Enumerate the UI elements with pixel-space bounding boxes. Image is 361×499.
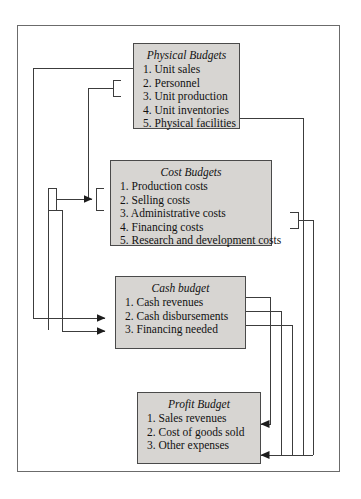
node-cash-budget-items: 1. Cash revenues 2. Cash disbursements 3… [125,296,236,337]
list-item: 3. Other expenses [147,439,251,453]
list-item: 2. Cash disbursements [125,310,236,324]
node-cost-budgets-items: 1. Production costs 2. Selling costs 3. … [120,180,262,248]
list-item: 1. Unit sales [143,63,230,77]
list-item: 5. Physical facilities [143,117,230,131]
node-physical-budgets-title: Physical Budgets [143,49,230,61]
node-profit-budget-items: 1. Sales revenues 2. Cost of goods sold … [147,412,251,453]
list-item: 2. Cost of goods sold [147,426,251,440]
node-cost-budgets: Cost Budgets 1. Production costs 2. Sell… [110,160,272,246]
node-profit-budget: Profit Budget 1. Sales revenues 2. Cost … [137,392,261,464]
list-item: 3. Unit production [143,90,230,104]
list-item: 2. Personnel [143,77,230,91]
list-item: 5. Research and development costs [120,234,262,248]
list-item: 4. Financing costs [120,221,262,235]
node-profit-budget-title: Profit Budget [147,398,251,410]
list-item: 3. Administrative costs [120,207,262,221]
list-item: 2. Selling costs [120,194,262,208]
list-item: 1. Cash revenues [125,296,236,310]
node-physical-budgets-items: 1. Unit sales 2. Personnel 3. Unit produ… [143,63,230,131]
node-cash-budget: Cash budget 1. Cash revenues 2. Cash dis… [115,276,246,349]
list-item: 1. Production costs [120,180,262,194]
node-cost-budgets-title: Cost Budgets [120,166,262,178]
node-physical-budgets: Physical Budgets 1. Unit sales 2. Person… [133,43,240,129]
list-item: 4. Unit inventories [143,104,230,118]
list-item: 3. Financing needed [125,323,236,337]
list-item: 1. Sales revenues [147,412,251,426]
node-cash-budget-title: Cash budget [125,282,236,294]
diagram-page: Physical Budgets 1. Unit sales 2. Person… [0,0,361,499]
